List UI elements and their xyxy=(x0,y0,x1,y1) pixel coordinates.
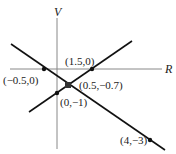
r-axis-label: R xyxy=(164,62,173,76)
label-neg0.5-0: (−0.5,0) xyxy=(3,74,39,87)
label-intersection: (0.5,−0.7) xyxy=(79,79,123,92)
point-intersection xyxy=(65,82,71,88)
label-1.5-0: (1.5,0) xyxy=(65,55,95,68)
v-axis-label: V xyxy=(54,5,63,19)
point-1.5-0 xyxy=(90,67,94,71)
point-4-neg3 xyxy=(148,138,152,142)
label-0-neg1: (0,−1) xyxy=(60,96,88,109)
line-intersection-diagram: V R (−0.5,0) (1.5,0) (0.5,−0.7) (0,−1) (… xyxy=(0,0,176,154)
label-4-neg3: (4,−3) xyxy=(120,134,148,147)
point-neg0.5-0 xyxy=(42,67,46,71)
point-0-neg1 xyxy=(55,91,59,95)
